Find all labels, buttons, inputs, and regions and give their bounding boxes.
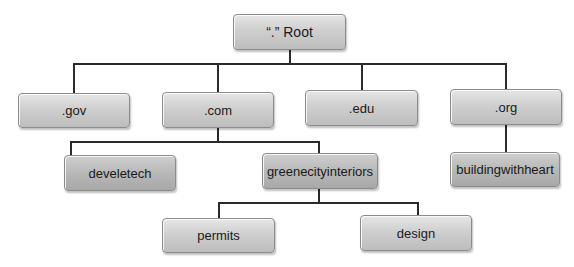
- node-root: “.” Root: [233, 14, 346, 50]
- connector-greene-bus: [218, 202, 419, 204]
- connector-com-down: [217, 128, 219, 142]
- node-gov: .gov: [18, 93, 130, 128]
- node-design: design: [360, 215, 472, 251]
- connector-edu: [361, 63, 363, 90]
- connector-greenecityinteriors: [318, 141, 320, 153]
- node-develetech: develetech: [64, 155, 176, 191]
- node-greenecityinteriors: greenecityinteriors: [262, 153, 378, 189]
- node-org: .org: [450, 89, 562, 125]
- connector-develetech: [70, 141, 72, 155]
- connector-tld-bus: [73, 63, 507, 65]
- node-edu: .edu: [305, 90, 418, 126]
- connector-com-bus: [70, 141, 320, 143]
- connector-design: [417, 202, 419, 215]
- connector-org: [505, 63, 507, 89]
- node-buildingwithheart: buildingwithheart: [450, 152, 560, 187]
- connector-permits: [218, 202, 220, 218]
- node-com: .com: [162, 92, 274, 128]
- connector-buildingwithheart: [505, 125, 507, 152]
- connector-com: [217, 63, 219, 92]
- connector-gov: [73, 63, 75, 93]
- node-permits: permits: [162, 218, 275, 253]
